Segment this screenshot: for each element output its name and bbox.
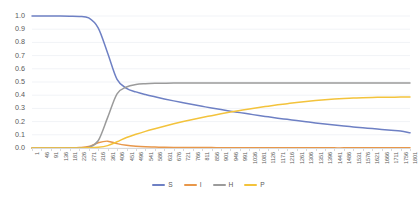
x-axis: 1469113618122627131636140645149654158663… bbox=[32, 149, 410, 175]
x-tick-mark bbox=[249, 149, 250, 151]
x-tick-mark bbox=[70, 149, 71, 151]
plot-area bbox=[32, 16, 410, 148]
x-tick-label: 1126 bbox=[271, 152, 276, 164]
x-tick-label: 856 bbox=[215, 152, 220, 161]
x-tick-label: 1531 bbox=[357, 152, 362, 164]
y-tick-label: 0.6 bbox=[15, 65, 25, 72]
x-tick-label: 1081 bbox=[262, 152, 267, 164]
x-tick-label: 766 bbox=[196, 152, 201, 161]
x-tick-mark bbox=[108, 149, 109, 151]
x-tick-mark bbox=[155, 149, 156, 151]
x-tick-mark bbox=[127, 149, 128, 151]
x-tick-label: 181 bbox=[73, 152, 78, 161]
x-tick-mark bbox=[363, 149, 364, 151]
x-tick-label: 1 bbox=[35, 152, 40, 155]
x-tick-label: 1216 bbox=[290, 152, 295, 164]
legend-swatch-h bbox=[213, 184, 226, 186]
x-tick-label: 46 bbox=[45, 152, 50, 158]
x-tick-mark bbox=[316, 149, 317, 151]
x-tick-label: 1036 bbox=[253, 152, 258, 164]
y-tick-label: 0.2 bbox=[15, 118, 25, 125]
x-tick-mark bbox=[164, 149, 165, 151]
y-axis: 1.00.90.80.70.60.50.40.30.20.10.0 bbox=[0, 16, 28, 148]
x-tick-mark bbox=[230, 149, 231, 151]
x-tick-mark bbox=[183, 149, 184, 151]
x-tick-label: 1351 bbox=[319, 152, 324, 164]
x-tick-mark bbox=[145, 149, 146, 151]
x-tick-mark bbox=[325, 149, 326, 151]
x-tick-mark bbox=[202, 149, 203, 151]
series-lines bbox=[32, 16, 410, 148]
x-tick-label: 676 bbox=[177, 152, 182, 161]
x-tick-mark bbox=[174, 149, 175, 151]
x-tick-mark bbox=[41, 149, 42, 151]
chart-legend: SIHP bbox=[0, 179, 417, 191]
legend-item-h[interactable]: H bbox=[213, 182, 234, 189]
x-tick-label: 451 bbox=[130, 152, 135, 161]
x-tick-label: 1666 bbox=[385, 152, 390, 164]
y-tick-label: 0.3 bbox=[15, 105, 25, 112]
x-tick-mark bbox=[334, 149, 335, 151]
x-tick-mark bbox=[212, 149, 213, 151]
y-tick-label: 0.4 bbox=[15, 92, 25, 99]
x-tick-mark bbox=[344, 149, 345, 151]
x-tick-mark bbox=[240, 149, 241, 151]
x-tick-mark bbox=[193, 149, 194, 151]
x-tick-label: 316 bbox=[101, 152, 106, 161]
series-line-s bbox=[32, 16, 410, 133]
x-tick-mark bbox=[98, 149, 99, 151]
y-tick-label: 0.0 bbox=[15, 144, 25, 151]
x-tick-label: 226 bbox=[82, 152, 87, 161]
x-tick-mark bbox=[221, 149, 222, 151]
x-tick-label: 901 bbox=[224, 152, 229, 161]
x-tick-label: 1441 bbox=[338, 152, 343, 164]
x-tick-mark bbox=[287, 149, 288, 151]
x-tick-label: 586 bbox=[158, 152, 163, 161]
x-tick-label: 91 bbox=[54, 152, 59, 158]
y-tick-label: 0.5 bbox=[15, 78, 25, 85]
series-line-h bbox=[32, 83, 410, 148]
series-line-p bbox=[32, 97, 410, 148]
x-tick-mark bbox=[51, 149, 52, 151]
legend-label: I bbox=[200, 182, 202, 189]
x-tick-mark bbox=[297, 149, 298, 151]
x-tick-label: 946 bbox=[234, 152, 239, 161]
legend-item-i[interactable]: I bbox=[184, 182, 202, 189]
x-tick-mark bbox=[268, 149, 269, 151]
x-tick-label: 721 bbox=[186, 152, 191, 161]
x-tick-label: 1486 bbox=[347, 152, 352, 164]
x-tick-label: 1261 bbox=[300, 152, 305, 164]
x-tick-label: 631 bbox=[168, 152, 173, 161]
legend-swatch-p bbox=[244, 184, 257, 186]
x-tick-label: 811 bbox=[205, 152, 210, 161]
x-tick-mark bbox=[372, 149, 373, 151]
x-tick-label: 991 bbox=[243, 152, 248, 161]
x-tick-mark bbox=[278, 149, 279, 151]
x-tick-mark bbox=[382, 149, 383, 151]
x-tick-mark bbox=[410, 149, 411, 151]
y-tick-label: 0.7 bbox=[15, 52, 25, 59]
y-tick-label: 0.1 bbox=[15, 131, 25, 138]
x-tick-label: 1576 bbox=[366, 152, 371, 164]
legend-label: S bbox=[168, 182, 172, 189]
x-tick-mark bbox=[259, 149, 260, 151]
x-tick-label: 1756 bbox=[404, 152, 409, 164]
legend-item-s[interactable]: S bbox=[152, 182, 172, 189]
legend-label: P bbox=[260, 182, 264, 189]
x-tick-label: 1306 bbox=[309, 152, 314, 164]
x-tick-mark bbox=[391, 149, 392, 151]
x-tick-label: 1621 bbox=[375, 152, 380, 164]
legend-item-p[interactable]: P bbox=[244, 182, 264, 189]
x-tick-mark bbox=[136, 149, 137, 151]
y-tick-label: 0.9 bbox=[15, 26, 25, 33]
x-tick-label: 541 bbox=[149, 152, 154, 161]
x-tick-label: 496 bbox=[139, 152, 144, 161]
legend-label: H bbox=[229, 182, 234, 189]
x-tick-label: 1801 bbox=[413, 152, 418, 164]
x-tick-mark bbox=[353, 149, 354, 151]
x-tick-label: 361 bbox=[111, 152, 116, 161]
x-tick-label: 1711 bbox=[394, 152, 399, 164]
x-tick-label: 406 bbox=[120, 152, 125, 161]
x-tick-mark bbox=[117, 149, 118, 151]
